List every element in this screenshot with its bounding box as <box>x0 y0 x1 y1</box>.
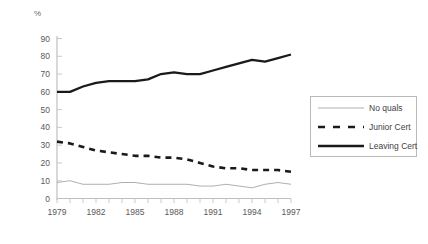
x-axis-tick-labels: 1979198219851988199119941997 <box>48 207 301 217</box>
y-axis-tick-label: 50 <box>41 105 51 115</box>
y-axis-tick-label: 20 <box>41 158 51 168</box>
x-axis-tick-label: 1979 <box>48 207 67 217</box>
x-axis-tick-label: 1985 <box>126 207 145 217</box>
x-axis-tick-label: 1994 <box>243 207 262 217</box>
solid-line-icon <box>316 139 366 153</box>
y-axis-tick-label: 90 <box>41 34 51 44</box>
dashed-line-icon <box>316 120 366 134</box>
y-axis-tick-marks <box>57 39 62 199</box>
y-axis-tick-label: 80 <box>41 51 51 61</box>
y-axis-tick-label: 70 <box>41 69 51 79</box>
x-axis-tick-label: 1988 <box>165 207 184 217</box>
y-axis-tick-labels: 0102030405060708090 <box>41 34 51 204</box>
x-axis-tick-label: 1982 <box>87 207 106 217</box>
thin-solid-line-icon <box>316 101 366 115</box>
x-axis-tick-marks <box>57 199 291 204</box>
data-series-group <box>57 55 291 188</box>
y-axis-tick-label: 0 <box>45 194 50 204</box>
x-axis-tick-label: 1997 <box>282 207 301 217</box>
y-axis-tick-label: 40 <box>41 122 51 132</box>
legend-label: Junior Cert <box>369 123 411 132</box>
legend-item-junior-cert[interactable]: Junior Cert <box>311 117 418 137</box>
chart-legend: No quals Junior Cert Leaving Cert <box>310 96 417 157</box>
legend-item-leaving-cert[interactable]: Leaving Cert <box>311 136 418 156</box>
legend-label: Leaving Cert <box>369 142 417 151</box>
y-axis-tick-label: 30 <box>41 140 51 150</box>
chart-container: % 0102030405060708090 197919821985198819… <box>0 0 428 244</box>
x-axis-tick-label: 1991 <box>204 207 223 217</box>
y-axis-tick-label: 10 <box>41 176 51 186</box>
legend-item-no-quals[interactable]: No quals <box>311 98 418 118</box>
series-line <box>57 55 291 92</box>
legend-label: No quals <box>369 104 403 113</box>
series-line <box>57 142 291 172</box>
y-axis-tick-label: 60 <box>41 87 51 97</box>
series-line <box>57 181 291 188</box>
